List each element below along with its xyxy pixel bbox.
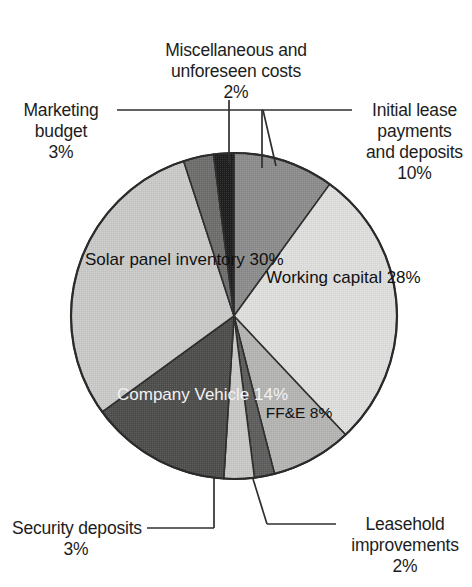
slice-label-working-line1: Working [266,268,328,287]
slice-label-marketing-budget-line2: budget [6,121,116,142]
slice-label-leasehold-value: 2% [343,556,467,577]
slice-label-vehicle-value: 14% [254,385,288,404]
slice-label-vehicle-line2: Vehicle [195,385,250,404]
slice-label-vehicle-line1: Company [117,385,190,404]
slice-label-security-deposits: Security deposits 3% [12,518,140,560]
slice-label-miscellaneous-line2: unforeseen costs [0,61,472,82]
slice-label-security-deposits-line1: Security deposits [12,518,140,539]
slice-label-company-vehicle: Company Vehicle 14% [117,385,242,405]
slice-label-solar-panel-inventory: Solar panel inventory 30% [85,250,235,270]
slice-label-solar-line2: inventory [176,250,245,269]
slice-label-working-capital: Working capital 28% [266,268,376,288]
pie-slice-texture [71,153,397,479]
slice-label-miscellaneous: Miscellaneous and unforeseen costs 2% [0,40,472,103]
slice-label-solar-value: 30% [249,250,283,269]
slice-label-ffe-line1: FF&E [266,404,306,421]
pie-chart: Miscellaneous and unforeseen costs 2% Ma… [0,0,472,587]
slice-label-ffe-value: 8% [310,404,332,421]
slice-label-leasehold-line1: Leasehold [343,514,467,535]
slice-label-leasehold-line2: improvements [343,535,467,556]
slice-label-initial-lease-value: 10% [357,163,472,184]
slice-label-initial-lease-line3: and deposits [357,142,472,163]
slice-label-solar-line1: Solar panel [85,250,171,269]
slice-label-working-value: 28% [387,268,421,287]
slice-label-marketing-budget-line1: Marketing [6,100,116,121]
slice-label-initial-lease: Initial lease payments and deposits 10% [357,100,472,184]
slice-label-ffe: FF&E 8% [259,404,339,422]
slice-label-initial-lease-line1: Initial lease [357,100,472,121]
slice-label-marketing-budget-value: 3% [6,142,116,163]
slice-label-miscellaneous-line1: Miscellaneous and [0,40,472,61]
leader-line-leasehold-v [253,479,267,524]
slice-label-working-line2: capital [333,268,382,287]
slice-label-leasehold-improvements: Leasehold improvements 2% [343,514,467,577]
slice-label-security-deposits-value: 3% [12,539,140,560]
slice-label-initial-lease-line2: payments [357,121,472,142]
slice-label-marketing-budget: Marketing budget 3% [6,100,116,163]
